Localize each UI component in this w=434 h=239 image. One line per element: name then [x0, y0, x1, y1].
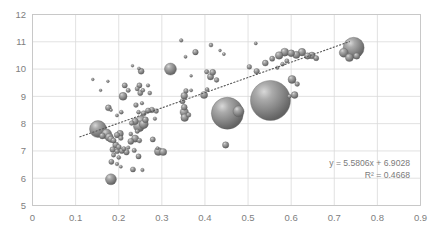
bubble-marker	[190, 89, 193, 92]
bubble-marker	[262, 60, 268, 66]
data-point	[130, 167, 135, 172]
data-point	[119, 110, 123, 114]
bubble-marker	[119, 165, 122, 168]
bubble-marker	[118, 136, 123, 141]
data-point	[126, 146, 130, 150]
data-point	[136, 154, 141, 159]
bubble-marker	[156, 147, 159, 150]
data-point	[119, 165, 122, 168]
x-axis-tick-label: 0.5	[241, 212, 254, 223]
bubble-marker	[115, 162, 119, 166]
bubble-marker	[247, 64, 252, 69]
bubble-marker	[285, 59, 289, 63]
bubble-marker	[209, 43, 213, 47]
data-point	[164, 63, 176, 75]
data-point	[254, 42, 257, 45]
bubble-marker	[146, 84, 150, 88]
r-squared-label: R² = 0.4668	[365, 170, 410, 180]
data-point	[132, 148, 136, 152]
bubble-marker	[181, 92, 188, 99]
x-axis-tick-label: 0.9	[414, 212, 427, 223]
data-point	[186, 113, 191, 118]
data-point	[146, 84, 150, 88]
bubble-marker	[314, 56, 319, 61]
bubble-marker	[184, 55, 187, 58]
x-axis-tick-label: 0.8	[371, 212, 384, 223]
bubble-marker	[129, 132, 133, 136]
data-point	[204, 70, 208, 74]
data-point	[200, 91, 207, 98]
data-point	[291, 92, 298, 99]
y-axis-tick-label: 5	[21, 200, 26, 211]
data-point	[190, 74, 193, 77]
data-point	[117, 155, 121, 159]
bubble-marker	[148, 91, 152, 95]
data-point	[140, 101, 144, 105]
bubble-marker	[111, 153, 115, 157]
data-point	[128, 138, 134, 144]
data-point	[135, 87, 139, 91]
bubble-marker	[275, 52, 283, 60]
data-point	[111, 138, 116, 143]
bubble-marker	[111, 138, 116, 143]
bubble-marker	[91, 78, 94, 81]
bubble-marker	[126, 146, 130, 150]
bubble-marker	[105, 174, 116, 185]
data-point	[142, 117, 148, 123]
bubble-marker	[119, 110, 123, 114]
bubble-marker	[219, 49, 222, 52]
data-point	[285, 59, 289, 63]
bubble-marker	[142, 117, 148, 123]
y-axis-tick-label: 9	[21, 91, 26, 102]
data-point	[131, 64, 134, 67]
x-axis-tick-label: 0.3	[155, 212, 168, 223]
bubble-marker	[122, 147, 126, 151]
data-point	[135, 129, 139, 133]
bubble-series	[90, 37, 365, 185]
bubble-marker	[135, 129, 139, 133]
data-point	[250, 80, 290, 120]
data-point	[109, 108, 112, 111]
bubble-marker	[153, 117, 157, 121]
data-point	[119, 92, 127, 100]
data-point	[91, 78, 94, 81]
bubble-marker	[132, 148, 136, 152]
data-point	[137, 138, 142, 143]
data-point	[122, 147, 126, 151]
data-point	[156, 147, 159, 150]
y-axis-labels: 56789101112	[15, 9, 26, 211]
bubble-marker	[270, 56, 275, 61]
y-axis-tick-label: 12	[15, 9, 26, 20]
data-point	[126, 88, 130, 92]
data-point	[115, 149, 120, 154]
data-point	[210, 69, 216, 75]
data-point	[122, 83, 127, 88]
x-axis-tick-label: 0.7	[328, 212, 341, 223]
bubble-marker	[287, 94, 291, 98]
bubble-marker	[254, 68, 260, 74]
bubble-marker	[288, 75, 296, 83]
data-point	[99, 89, 102, 92]
y-axis-tick-label: 7	[21, 145, 26, 156]
data-point	[288, 50, 295, 57]
data-point	[107, 80, 110, 83]
data-point	[190, 89, 193, 92]
data-point	[134, 103, 139, 108]
data-point	[288, 75, 296, 83]
bubble-marker	[141, 168, 145, 172]
bubble-marker	[291, 92, 298, 99]
bubble-marker	[193, 49, 199, 55]
data-point	[233, 106, 244, 117]
bubble-marker	[181, 104, 187, 110]
data-point	[179, 39, 183, 43]
bubble-marker	[141, 88, 145, 92]
data-point	[314, 56, 319, 61]
y-axis-tick-label: 10	[15, 63, 26, 74]
data-point	[181, 92, 188, 99]
data-point	[129, 121, 134, 126]
bubble-marker	[233, 106, 244, 117]
data-point	[275, 52, 283, 60]
bubble-marker	[190, 74, 193, 77]
data-point	[148, 91, 152, 95]
data-point	[150, 137, 155, 142]
